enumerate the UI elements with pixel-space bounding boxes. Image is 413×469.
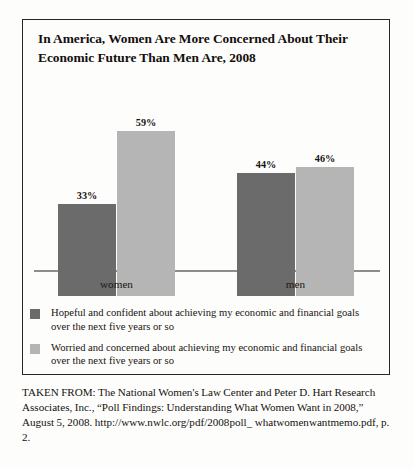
bar-label-men-hopeful: 44%	[256, 159, 276, 170]
legend-label-hopeful-line1: Hopeful and confident about achieving my…	[51, 306, 385, 320]
legend-swatch-worried	[30, 344, 40, 354]
group-label-men: men	[237, 278, 354, 290]
bar-label-women-worried: 59%	[136, 117, 156, 128]
legend-label-hopeful-line2: over the next five years or so	[51, 320, 385, 334]
bar-label-women-hopeful: 33%	[77, 190, 97, 201]
bar-fill-men-worried: 46%	[296, 167, 354, 296]
legend-swatch-hopeful	[30, 309, 40, 319]
group-label-women: women	[58, 278, 175, 290]
source-caption: TAKEN FROM: The National Women's Law Cen…	[22, 385, 392, 446]
bar-label-men-worried: 46%	[315, 153, 335, 164]
legend-item-hopeful: Hopeful and confident about achieving my…	[29, 306, 385, 334]
bar-women-worried: 59%	[117, 46, 175, 296]
legend-label-worried-line2: over the next five years or so	[51, 354, 385, 368]
bar-fill-women-worried: 59%	[117, 131, 175, 296]
bar-men-worried: 46%	[296, 46, 354, 296]
legend-label-worried-line1: Worried and concerned about achieving my…	[51, 341, 385, 355]
bar-women-hopeful: 33%	[58, 46, 116, 296]
chart-legend: Hopeful and confident about achieving my…	[29, 306, 385, 375]
figure-box: In America, Women Are More Concerned Abo…	[22, 19, 390, 375]
bar-chart-plot-area: 33% 59% 44% 46% women men	[23, 20, 391, 296]
legend-item-worried: Worried and concerned about achieving my…	[29, 341, 385, 369]
bar-men-hopeful: 44%	[237, 46, 295, 296]
